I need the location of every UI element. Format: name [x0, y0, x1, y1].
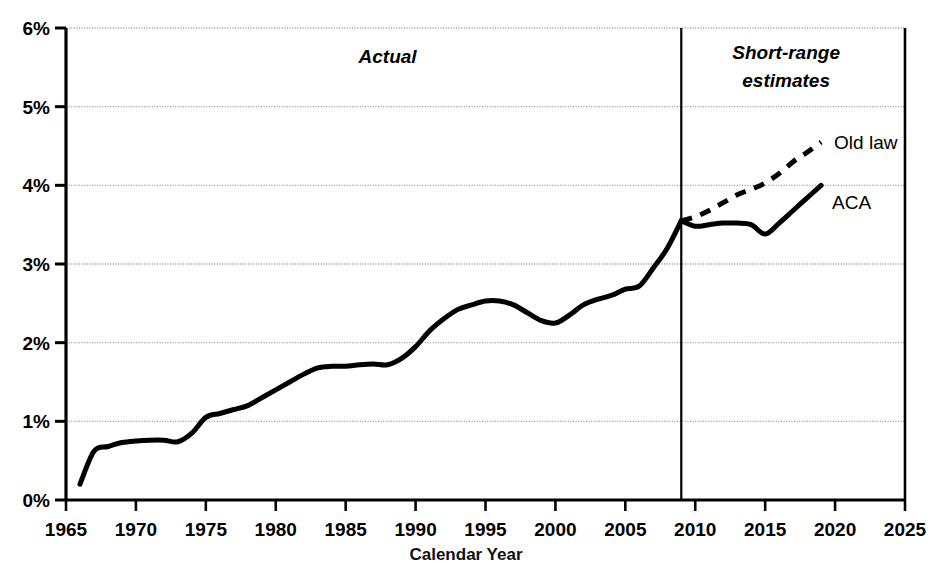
x-tick-label-1980: 1980 [255, 519, 297, 540]
x-tick-label-2000: 2000 [534, 519, 576, 540]
actual-region-label: Actual [358, 46, 418, 67]
chart-figure: 1965197019751980198519901995200020052010… [0, 0, 932, 585]
x-tick-label-1990: 1990 [394, 519, 436, 540]
x-tick-label-1970: 1970 [115, 519, 157, 540]
x-tick-label-1995: 1995 [464, 519, 507, 540]
x-tick-label-1985: 1985 [325, 519, 368, 540]
y-tick-label-6: 6% [23, 18, 51, 39]
x-tick-label-2025: 2025 [884, 519, 927, 540]
series-label-aca: ACA [832, 192, 871, 213]
chart-container: 1965197019751980198519901995200020052010… [0, 0, 932, 585]
short-range-estimates-label-2: estimates [742, 70, 830, 91]
y-tick-label-3: 3% [23, 254, 51, 275]
y-tick-label-5: 5% [23, 97, 51, 118]
x-tick-label-2020: 2020 [814, 519, 856, 540]
series-label-old-law: Old law [834, 132, 898, 153]
y-tick-label-4: 4% [23, 175, 51, 196]
x-tick-label-2005: 2005 [604, 519, 647, 540]
x-tick-label-2010: 2010 [674, 519, 716, 540]
x-tick-label-1975: 1975 [185, 519, 228, 540]
y-tick-label-1: 1% [23, 411, 51, 432]
x-tick-label-2015: 2015 [744, 519, 787, 540]
x-tick-label-1965: 1965 [45, 519, 88, 540]
x-axis-title: Calendar Year [409, 545, 522, 564]
short-range-estimates-label: Short-range [732, 42, 840, 63]
y-tick-label-2: 2% [23, 333, 51, 354]
y-tick-label-0: 0% [23, 490, 51, 511]
